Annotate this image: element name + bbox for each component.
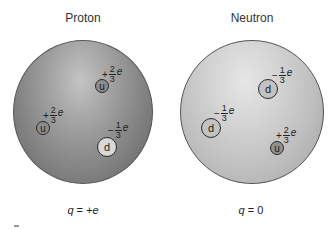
charge-unit: e xyxy=(287,68,293,78)
neutron-total-charge: q = 0 xyxy=(239,204,264,216)
neutron-quark-1-charge: − 1 3 e xyxy=(272,66,292,85)
proton-title: Proton xyxy=(65,11,100,25)
fraction-denominator: 3 xyxy=(116,131,121,140)
neutron-sphere xyxy=(180,40,324,184)
equals-sign: = xyxy=(77,204,83,216)
proton-down-quark: d xyxy=(97,137,117,157)
charge-fraction: 2 3 xyxy=(50,106,57,125)
scan-artifact-mark xyxy=(14,225,19,227)
charge-unit: e xyxy=(117,67,123,77)
fraction-denominator: 3 xyxy=(51,116,56,125)
charge-sign: − xyxy=(272,71,278,81)
proton-sphere xyxy=(13,40,153,184)
charge-fraction: 2 3 xyxy=(109,65,116,84)
proton-quark-2-charge: + 2 3 e xyxy=(43,106,63,125)
charge-fraction: 1 3 xyxy=(115,121,122,140)
charge-fraction: 1 3 xyxy=(221,104,228,123)
charge-value: +e xyxy=(86,204,99,216)
charge-sign: + xyxy=(102,70,108,80)
fraction-denominator: 3 xyxy=(284,136,289,145)
fraction-denominator: 3 xyxy=(280,76,285,85)
charge-unit: e xyxy=(291,128,297,138)
charge-unit: e xyxy=(123,123,129,133)
neutron-title: Neutron xyxy=(231,11,274,25)
charge-fraction: 1 3 xyxy=(279,66,286,85)
fraction-denominator: 3 xyxy=(110,75,115,84)
quark-flavor-label: d xyxy=(104,141,110,153)
charge-sign: + xyxy=(276,131,282,141)
proton-quark-3-charge: − 1 3 e xyxy=(108,121,128,140)
charge-unit: e xyxy=(58,108,64,118)
charge-unit: e xyxy=(229,106,235,116)
charge-fraction: 2 3 xyxy=(283,126,290,145)
neutron-quark-3-charge: + 2 3 e xyxy=(276,126,296,145)
charge-sign: − xyxy=(214,109,220,119)
charge-value: 0 xyxy=(257,204,263,216)
charge-variable: q xyxy=(239,204,245,216)
quark-flavor-label: d xyxy=(265,83,271,95)
equals-sign: = xyxy=(248,204,254,216)
charge-sign: − xyxy=(108,126,114,136)
charge-variable: q xyxy=(67,204,73,216)
neutron-quark-2-charge: − 1 3 e xyxy=(214,104,234,123)
proton-total-charge: q = +e xyxy=(67,204,98,216)
charge-sign: + xyxy=(43,111,49,121)
quark-flavor-label: d xyxy=(208,122,214,134)
fraction-denominator: 3 xyxy=(222,114,227,123)
proton-quark-1-charge: + 2 3 e xyxy=(102,65,122,84)
